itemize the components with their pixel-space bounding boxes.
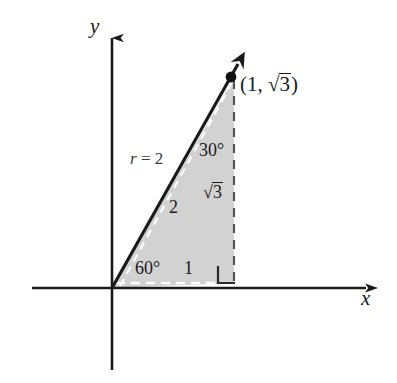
sqrt-radical-point: √3 bbox=[268, 73, 291, 95]
math-diagram-figure: y x (1, √3) r = 2 30° √3 2 60° 1 bbox=[0, 0, 397, 383]
hypotenuse-length-label: 2 bbox=[169, 198, 178, 216]
radius-variable: r bbox=[130, 149, 137, 168]
sqrt-radical-leg: √3 bbox=[203, 182, 223, 201]
point-marker bbox=[226, 72, 237, 83]
point-label-close: ) bbox=[291, 72, 298, 96]
x-axis-label: x bbox=[361, 288, 370, 309]
point-label-open: (1, bbox=[240, 72, 268, 96]
sqrt-radicand: 3 bbox=[279, 73, 292, 95]
radius-value: = 2 bbox=[137, 149, 164, 168]
diagram-canvas bbox=[0, 0, 397, 383]
adjacent-length-label: 1 bbox=[184, 259, 193, 277]
point-coordinates-label: (1, √3) bbox=[240, 73, 298, 95]
angle-60-label: 60° bbox=[135, 259, 160, 277]
sqrt-radicand: 3 bbox=[212, 182, 223, 201]
vertical-leg-label: √3 bbox=[203, 182, 223, 201]
y-axis-label: y bbox=[90, 16, 99, 37]
angle-30-label: 30° bbox=[199, 141, 224, 159]
radius-label: r = 2 bbox=[130, 150, 163, 167]
